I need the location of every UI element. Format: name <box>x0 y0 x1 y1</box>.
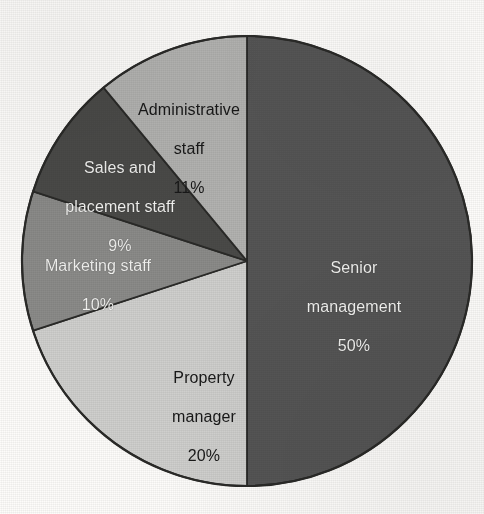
slice-value-property-manager: 20% <box>134 446 274 466</box>
slice-label-property-manager-line1: Property <box>134 368 274 388</box>
slice-label-senior-management-line1: Senior <box>286 258 422 278</box>
slice-label-administrative-staff-line2: staff <box>110 139 268 159</box>
slice-label-administrative-staff: Administrative staff 11% <box>110 80 268 217</box>
pie-chart-figure: Senior management 50% Property manager 2… <box>0 0 484 514</box>
slice-label-property-manager-line2: manager <box>134 407 274 427</box>
slice-label-administrative-staff-line1: Administrative <box>110 100 268 120</box>
slice-value-sales-and-placement-staff: 9% <box>36 236 204 256</box>
slice-label-senior-management-line2: management <box>286 297 422 317</box>
slice-label-property-manager: Property manager 20% <box>134 348 274 485</box>
slice-value-administrative-staff: 11% <box>110 178 268 198</box>
slice-label-senior-management: Senior management 50% <box>286 238 422 375</box>
slice-value-marketing-staff: 10% <box>18 295 178 315</box>
slice-value-senior-management: 50% <box>286 336 422 356</box>
